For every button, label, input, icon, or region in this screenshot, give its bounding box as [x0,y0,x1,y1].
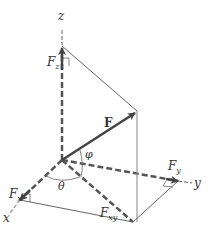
force-diagram: z y x F Fz Fx Fy Fxy θ φ [0,0,214,238]
fxy-component [62,160,133,222]
right-angle-mark [163,181,173,187]
fz-label: Fz [46,55,60,71]
theta-label: θ [58,180,65,193]
phi-label: φ [85,148,93,161]
fx-label: Fx [8,187,22,203]
force-vector [62,113,135,160]
z-axis-label: z [57,9,65,23]
fy-label: Fy [167,159,181,175]
y-axis [62,160,178,181]
fxy-label: Fxy [99,206,118,222]
force-label: F [104,116,113,130]
construction-line [62,46,137,111]
y-axis-thin [178,181,192,183]
x-axis-label: x [3,211,10,225]
fy-arrow [166,179,178,181]
y-axis-label: y [193,176,201,190]
